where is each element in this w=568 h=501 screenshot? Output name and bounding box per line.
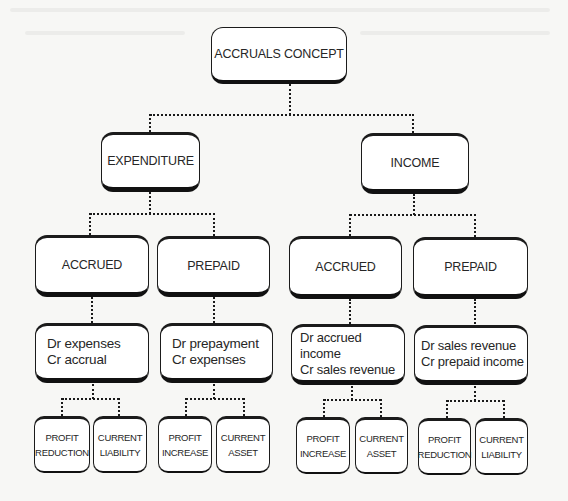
connector-line [446,400,448,418]
connector-line [350,214,476,216]
connector-line [149,192,151,214]
journal-income-prepaid: Dr sales revenue Cr prepaid income [414,325,528,385]
connector-line [351,386,353,400]
node-label: ACCRUED [315,260,375,274]
node-label: EXPENDITURE [107,154,194,168]
connector-line [412,114,414,133]
node-expenditure-prepaid: PREPAID [157,236,270,297]
connector-line [447,400,504,402]
connector-line [89,213,91,235]
background-bleed-line [10,8,550,12]
connector-line [474,386,476,401]
effect-line: ASSET [359,446,403,461]
background-bleed-line [360,31,550,35]
journal-credit: Cr sales revenue [300,362,404,378]
effect-current-asset: CURRENT ASSET [355,417,408,474]
connector-line [243,398,245,416]
node-income-accrued: ACCRUED [289,236,402,299]
effect-line: CURRENT [359,431,403,446]
node-accruals-concept: ACCRUALS CONCEPT [211,27,347,84]
connector-line [186,398,244,400]
connector-line [474,299,476,324]
effect-current-asset: CURRENT ASSET [216,416,270,473]
connector-line [91,297,93,323]
journal-expenditure-prepaid: Dr prepayment Cr expenses [160,323,273,383]
connector-line [380,399,382,417]
connector-line [92,384,94,399]
connector-line [90,213,215,215]
connector-line [323,399,325,417]
connector-line [149,114,151,132]
node-label: PREPAID [444,260,497,274]
effect-profit-reduction: PROFIT REDUCTION [34,416,90,473]
connector-line [150,114,414,116]
effect-line: PROFIT [418,432,472,447]
journal-debit: Dr expenses [47,336,121,352]
node-expenditure-accrued: ACCRUED [35,235,149,297]
connector-line [213,213,215,236]
node-label: ACCRUALS CONCEPT [214,47,343,61]
node-label: ACCRUED [62,258,122,272]
effect-line: CURRENT [479,432,523,447]
journal-credit: Cr accrual [47,352,121,368]
effect-line: REDUCTION [35,445,89,460]
connector-line [324,399,381,401]
node-expenditure: EXPENDITURE [101,132,200,192]
effect-line: INCREASE [300,446,346,461]
connector-line [413,194,415,215]
connector-line [61,398,63,416]
effect-line: PROFIT [35,430,89,445]
node-label: PREPAID [187,259,240,273]
effect-current-liability: CURRENT LIABILITY [475,418,528,475]
journal-debit: Dr sales revenue [421,338,524,354]
connector-line [289,84,291,115]
connector-line [62,398,119,400]
connector-line [349,299,351,324]
effect-profit-increase: PROFIT INCREASE [296,417,350,474]
node-income-prepaid: PREPAID [413,237,528,299]
connector-line [213,384,215,399]
journal-credit: Cr expenses [172,352,259,368]
connector-line [349,214,351,236]
connector-line [213,297,215,323]
effect-profit-reduction: PROFIT REDUCTION [418,418,471,475]
node-label: INCOME [391,156,440,170]
effect-line: LIABILITY [98,445,142,460]
connector-line [503,400,505,418]
effect-line: LIABILITY [479,447,523,462]
connector-line [474,214,476,237]
effect-profit-increase: PROFIT INCREASE [158,416,212,473]
connector-line [185,398,187,416]
journal-debit: Dr accrued income [300,330,404,362]
node-income: INCOME [361,133,469,194]
effect-line: CURRENT [98,430,142,445]
effect-line: CURRENT [221,430,265,445]
effect-line: PROFIT [162,430,208,445]
effect-line: INCREASE [162,445,208,460]
effect-current-liability: CURRENT LIABILITY [93,416,147,473]
connector-line [118,398,120,416]
effect-line: REDUCTION [418,447,472,462]
effect-line: PROFIT [300,431,346,446]
journal-income-accrued: Dr accrued income Cr sales revenue [291,324,405,385]
journal-expenditure-accrued: Dr expenses Cr accrual [35,323,149,383]
journal-debit: Dr prepayment [172,336,259,352]
background-bleed-line [25,31,185,35]
journal-credit: Cr prepaid income [421,354,524,370]
effect-line: ASSET [221,445,265,460]
